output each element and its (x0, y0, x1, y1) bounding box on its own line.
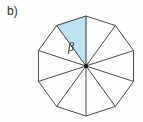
angle-label-beta: β (67, 40, 74, 54)
radius-line (86, 51, 134, 66)
center-point (84, 64, 88, 68)
radius-line (86, 26, 115, 66)
radius-line (86, 66, 115, 106)
radius-line (86, 66, 134, 81)
radius-line (38, 66, 86, 81)
decagon-diagram: β (0, 0, 143, 122)
radius-line (57, 66, 86, 106)
center-dot (84, 64, 88, 68)
figure-container: b) β (0, 0, 143, 122)
